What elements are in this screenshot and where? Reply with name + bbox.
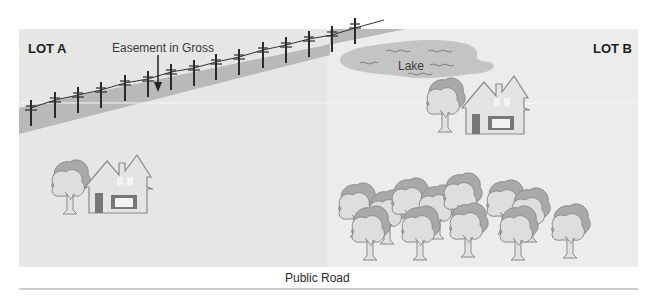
lot-b-label: LOT B <box>593 41 632 56</box>
lake-label: Lake <box>398 59 424 73</box>
lot-a-label: LOT A <box>28 41 67 56</box>
easement-diagram <box>0 0 657 297</box>
road-label: Public Road <box>285 271 350 285</box>
easement-label: Easement in Gross <box>112 41 214 55</box>
